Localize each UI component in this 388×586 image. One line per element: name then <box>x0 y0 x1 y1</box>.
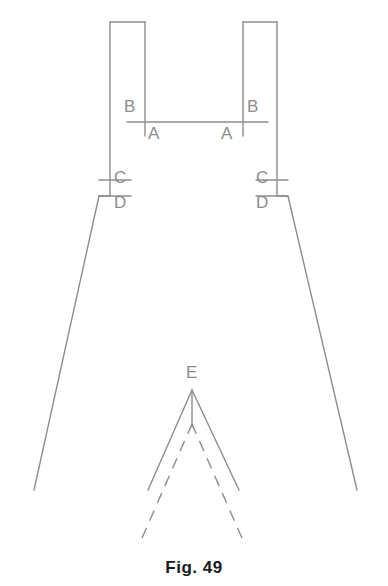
label-b-right: B <box>247 98 258 115</box>
label-c-left: C <box>114 169 126 186</box>
crotch-left-inseam <box>148 390 192 490</box>
figure-49-container: B B A A C C D D E Fig. 49 <box>0 0 388 586</box>
figure-caption: Fig. 49 <box>0 558 388 578</box>
label-a-left: A <box>148 125 159 142</box>
right-trouser-leg-outseam <box>277 196 357 490</box>
crotch-left-dashed-inseam <box>139 424 192 545</box>
garment-pattern-diagram <box>0 0 388 586</box>
diagram-strokes <box>34 22 357 545</box>
label-c-right: C <box>256 169 268 186</box>
label-d-left: D <box>114 194 126 211</box>
left-trouser-leg-outseam <box>34 196 110 490</box>
label-d-right: D <box>256 194 268 211</box>
label-b-left: B <box>124 98 135 115</box>
crotch-right-inseam <box>192 390 239 490</box>
label-a-right: A <box>221 125 232 142</box>
label-e-apex: E <box>186 364 197 381</box>
